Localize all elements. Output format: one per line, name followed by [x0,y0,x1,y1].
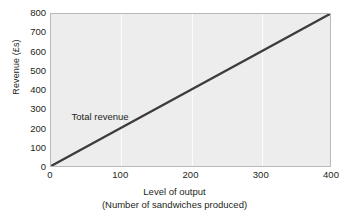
y-axis-tick-labels: 0100200300400500600700800 [14,8,46,172]
x-axis-tick-label: 400 [311,169,349,181]
x-axis-title-main: Level of output [143,186,205,197]
total-revenue-annotation: Total revenue [72,111,129,122]
x-axis-tick-label: 200 [171,169,211,181]
plot-area: Total revenue [50,13,331,167]
x-axis-tick-label: 300 [241,169,281,181]
y-axis-tick-label: 100 [14,143,46,153]
x-axis-title-sub: (Number of sandwiches produced) [0,198,349,211]
y-axis-tick-label: 300 [14,104,46,114]
y-axis-tick-label: 200 [14,124,46,134]
x-axis-title: Level of output (Number of sandwiches pr… [0,185,349,211]
y-axis-tick-label: 500 [14,66,46,76]
revenue-chart-figure: Revenue (£s) 0100200300400500600700800 T… [0,0,349,220]
y-axis-tick-label: 700 [14,27,46,37]
x-axis-tick-label: 0 [30,169,70,181]
y-axis-tick-label: 800 [14,8,46,18]
x-axis-tick-label: 100 [100,169,140,181]
x-axis-tick-labels: 0100200300400 [50,169,331,183]
y-axis-tick-label: 600 [14,47,46,57]
total-revenue-line [51,14,330,166]
y-axis-tick-label: 400 [14,85,46,95]
total-revenue-polyline [51,14,330,166]
